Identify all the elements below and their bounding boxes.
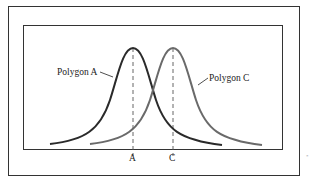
polygon-c-leader (198, 78, 208, 85)
axis-label-a: A (129, 153, 136, 163)
polygon-a-curve (50, 48, 222, 145)
polygon-a-leader (100, 72, 113, 77)
corner-mark: * (306, 154, 309, 159)
polygon-a-label: Polygon A (57, 67, 98, 77)
polygon-c-label: Polygon C (209, 73, 249, 83)
polygon-diagram: Polygon A Polygon C A C * (0, 0, 310, 186)
axis-label-c: C (169, 153, 175, 163)
